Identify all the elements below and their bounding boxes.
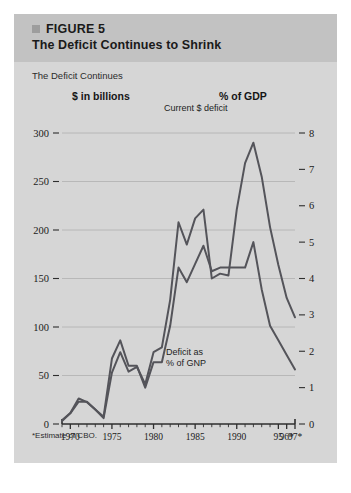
svg-text:250: 250 [33,176,49,187]
annotation-deficit-gnp: Deficit as % of GNP [166,347,206,369]
annotation-current-deficit: Current $ deficit [164,103,228,114]
svg-text:300: 300 [33,128,49,139]
svg-text:97*: 97* [288,432,303,442]
svg-text:5: 5 [309,237,314,248]
svg-text:2: 2 [309,346,314,357]
svg-text:6: 6 [309,200,314,211]
svg-text:100: 100 [33,322,49,333]
annotation-deficit-gnp-line2: % of GNP [166,358,206,369]
right-axis-ticks: 012345678 [299,128,315,430]
annotation-deficit-gnp-line1: Deficit as [166,347,206,358]
x-axis: 197019751980198519909596*97* [61,419,303,442]
svg-text:1990: 1990 [227,432,246,442]
svg-text:200: 200 [33,225,49,236]
svg-text:4: 4 [309,273,315,284]
left-axis-ticks: 050100150200250300 [33,128,59,430]
figure-card: FIGURE 5 The Deficit Continues to Shrink… [14,14,337,463]
svg-text:0: 0 [44,419,49,430]
figure-footnote: *Estimate of CBO. [32,431,97,440]
svg-text:1980: 1980 [144,432,163,442]
svg-text:8: 8 [309,128,314,139]
svg-text:1: 1 [309,382,314,393]
chart-svg: 050100150200250300 012345678 19701975198… [14,14,337,463]
chart-plot-area: 050100150200250300 012345678 19701975198… [14,14,337,463]
svg-text:7: 7 [309,164,314,175]
data-series-lines [62,143,295,421]
svg-text:1985: 1985 [186,432,205,442]
svg-text:150: 150 [33,273,49,284]
svg-text:3: 3 [309,309,314,320]
svg-text:50: 50 [39,370,50,381]
svg-text:1975: 1975 [102,432,121,442]
svg-text:0: 0 [309,419,314,430]
